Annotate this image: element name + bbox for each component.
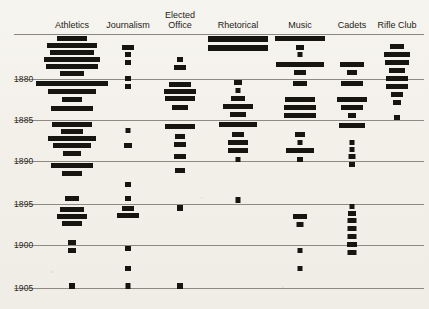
column-header-cadets: Cadets bbox=[338, 20, 367, 30]
bar-elected-office-4 bbox=[165, 96, 195, 101]
bar-rifle-club-8 bbox=[394, 115, 400, 120]
bar-music-10 bbox=[298, 140, 303, 145]
bar-athletics-19 bbox=[57, 214, 87, 219]
bar-rhetorical-0 bbox=[208, 36, 268, 42]
bar-rifle-club-4 bbox=[386, 76, 408, 81]
bar-athletics-16 bbox=[62, 171, 82, 176]
bar-journalism-6 bbox=[124, 143, 132, 148]
gridline-year bbox=[14, 120, 424, 121]
y-axis-label-1880: 1880 bbox=[14, 74, 33, 84]
bar-elected-office-9 bbox=[174, 154, 186, 159]
bar-cadets-7 bbox=[350, 140, 355, 145]
bar-cadets-1 bbox=[347, 70, 357, 75]
y-axis-label-1885: 1885 bbox=[14, 115, 33, 125]
bar-athletics-9 bbox=[51, 106, 93, 111]
bar-journalism-13 bbox=[126, 283, 131, 289]
bar-athletics-8 bbox=[62, 97, 82, 102]
y-axis-label-1905: 1905 bbox=[14, 283, 33, 293]
bar-elected-office-8 bbox=[174, 142, 186, 147]
bar-cadets-9 bbox=[349, 154, 356, 159]
column-header-music: Music bbox=[288, 20, 312, 30]
bar-rifle-club-7 bbox=[393, 100, 401, 105]
bar-music-5 bbox=[293, 81, 307, 86]
bar-music-4 bbox=[294, 70, 306, 75]
bar-rhetorical-8 bbox=[232, 132, 244, 137]
bar-cadets-14 bbox=[348, 226, 357, 231]
bar-athletics-0 bbox=[57, 36, 87, 41]
bar-journalism-10 bbox=[117, 213, 139, 218]
bar-elected-office-3 bbox=[164, 89, 196, 94]
bar-cadets-5 bbox=[348, 113, 356, 118]
bar-athletics-4 bbox=[46, 64, 98, 69]
bar-music-2 bbox=[298, 52, 303, 57]
bar-journalism-7 bbox=[125, 182, 131, 187]
bar-rhetorical-4 bbox=[231, 96, 245, 101]
bar-journalism-1 bbox=[125, 52, 131, 57]
y-axis-label-1900: 1900 bbox=[14, 240, 33, 250]
bar-music-14 bbox=[297, 222, 304, 227]
bar-journalism-5 bbox=[126, 128, 131, 133]
bar-cadets-11 bbox=[350, 204, 355, 209]
chart-plot-area: 188018851890189519001905AthleticsJournal… bbox=[0, 0, 429, 309]
bar-athletics-15 bbox=[51, 163, 93, 168]
y-axis-label-1890: 1890 bbox=[14, 156, 33, 166]
bar-cadets-10 bbox=[349, 162, 355, 167]
gridline-year bbox=[14, 204, 424, 205]
bar-rifle-club-1 bbox=[384, 52, 410, 57]
gridline-year bbox=[14, 79, 424, 80]
bar-athletics-20 bbox=[62, 221, 82, 226]
bar-music-9 bbox=[295, 132, 305, 137]
column-header-rhetorical: Rhetorical bbox=[218, 20, 259, 30]
column-header-journalism: Journalism bbox=[106, 20, 150, 30]
bar-athletics-6 bbox=[36, 81, 108, 86]
bar-elected-office-0 bbox=[177, 57, 183, 62]
bar-rhetorical-6 bbox=[230, 112, 246, 117]
bar-elected-office-1 bbox=[174, 65, 186, 70]
bar-athletics-17 bbox=[65, 196, 79, 201]
bar-rifle-club-3 bbox=[389, 68, 405, 73]
bar-athletics-3 bbox=[44, 57, 100, 62]
bar-athletics-12 bbox=[48, 136, 96, 141]
bar-rifle-club-0 bbox=[390, 44, 404, 49]
bar-journalism-4 bbox=[125, 84, 131, 89]
bar-rhetorical-12 bbox=[236, 197, 241, 203]
bar-music-13 bbox=[293, 214, 307, 219]
bar-journalism-8 bbox=[125, 196, 131, 201]
bar-cadets-16 bbox=[347, 242, 357, 247]
bar-cadets-3 bbox=[337, 97, 367, 102]
bar-cadets-6 bbox=[339, 123, 365, 128]
bar-rhetorical-5 bbox=[223, 104, 253, 109]
gridline-year bbox=[14, 161, 424, 162]
bar-cadets-8 bbox=[350, 147, 355, 152]
bar-athletics-7 bbox=[48, 89, 96, 94]
column-header-elected-office: ElectedOffice bbox=[165, 10, 195, 30]
bar-cadets-15 bbox=[348, 234, 357, 239]
bar-elected-office-6 bbox=[165, 124, 195, 129]
bar-cadets-12 bbox=[348, 211, 356, 216]
bar-rifle-club-5 bbox=[386, 84, 408, 89]
bar-music-0 bbox=[275, 36, 325, 41]
bar-cadets-0 bbox=[340, 62, 364, 67]
column-header-athletics: Athletics bbox=[55, 20, 89, 30]
bar-cadets-13 bbox=[348, 218, 357, 223]
bar-rhetorical-7 bbox=[219, 122, 257, 127]
bar-elected-office-5 bbox=[172, 105, 188, 110]
bar-athletics-11 bbox=[61, 129, 83, 134]
bar-athletics-22 bbox=[68, 248, 76, 253]
bar-rhetorical-10 bbox=[228, 148, 248, 153]
bar-music-1 bbox=[296, 45, 304, 50]
bar-music-6 bbox=[285, 97, 315, 102]
bar-athletics-21 bbox=[68, 240, 76, 245]
bar-rhetorical-3 bbox=[236, 88, 241, 93]
bar-journalism-0 bbox=[122, 45, 134, 50]
bar-journalism-9 bbox=[122, 206, 134, 211]
bar-rhetorical-11 bbox=[236, 157, 241, 162]
bar-elected-office-2 bbox=[169, 82, 191, 87]
axis-top-line bbox=[14, 34, 424, 35]
bar-journalism-2 bbox=[125, 60, 131, 65]
bar-journalism-12 bbox=[125, 266, 131, 271]
y-axis-label-1895: 1895 bbox=[14, 199, 33, 209]
bar-journalism-11 bbox=[125, 246, 131, 251]
bar-athletics-1 bbox=[47, 43, 97, 48]
bar-elected-office-10 bbox=[175, 168, 185, 173]
